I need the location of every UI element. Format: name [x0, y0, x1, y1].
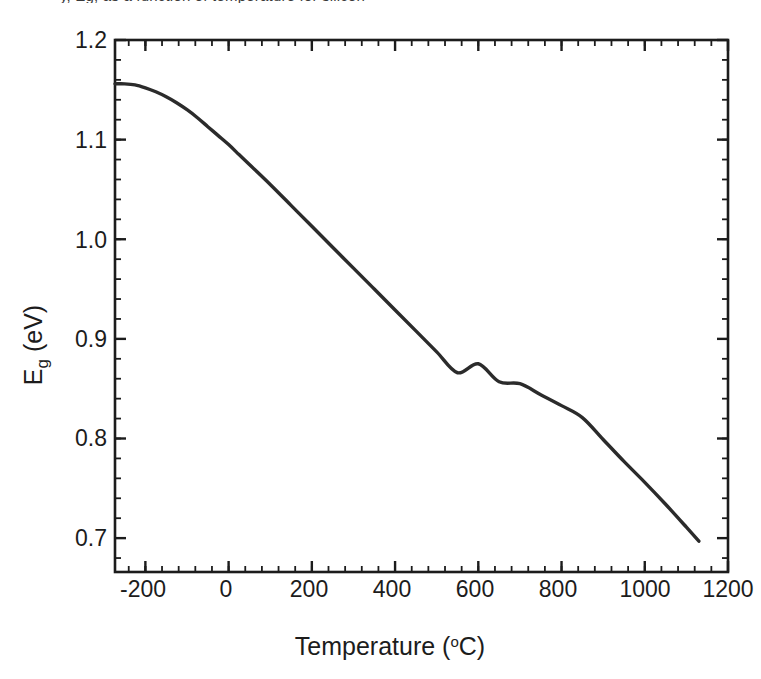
- x-tick-label-1200: 1200: [702, 576, 753, 602]
- axis-ticks: [115, 40, 728, 572]
- x-tick-label-800: 800: [539, 576, 577, 602]
- y-axis-tick-labels: 1.2 1.1 1.0 0.9 0.8 0.7: [75, 27, 107, 551]
- x-tick-label-400: 400: [373, 576, 411, 602]
- x-tick-label--200: -200: [120, 576, 166, 602]
- svg-text:Eg (eV): Eg (eV): [19, 305, 52, 385]
- x-tick-label-200: 200: [290, 576, 328, 602]
- y-axis-title: Eg (eV): [19, 305, 52, 385]
- x-axis-title-rest: C): [459, 632, 485, 660]
- y-axis-title-main: E: [19, 368, 47, 385]
- x-axis-title-degree: o: [450, 633, 458, 650]
- x-tick-label-1000: 1000: [619, 576, 670, 602]
- y-tick-label-1.0: 1.0: [75, 227, 107, 253]
- y-tick-label-0.8: 0.8: [75, 425, 107, 451]
- x-tick-label-600: 600: [456, 576, 494, 602]
- x-axis-title: Temperature (oC): [295, 632, 485, 660]
- svg-text:Temperature (oC): Temperature (oC): [295, 632, 485, 660]
- y-axis-title-rest: (eV): [19, 305, 47, 359]
- x-axis-title-main: Temperature (: [295, 632, 451, 660]
- y-tick-label-0.9: 0.9: [75, 326, 107, 352]
- plot-frame: [115, 40, 728, 572]
- figure-container: y, Eg, as a function of temperature for …: [0, 0, 761, 679]
- data-series-line: [115, 84, 699, 541]
- x-axis-tick-labels: -200 0 200 400 600 800 1000 1200: [120, 576, 754, 602]
- y-axis-title-sub: g: [33, 359, 52, 368]
- y-tick-label-1.1: 1.1: [75, 127, 107, 153]
- y-tick-label-0.7: 0.7: [75, 525, 107, 551]
- y-tick-label-1.2: 1.2: [75, 27, 107, 53]
- x-tick-label-0: 0: [220, 576, 233, 602]
- chart-svg: 1.2 1.1 1.0 0.9 0.8 0.7 -200 0 200 400 6…: [0, 0, 761, 679]
- plot-area: 1.2 1.1 1.0 0.9 0.8 0.7 -200 0 200 400 6…: [0, 0, 761, 679]
